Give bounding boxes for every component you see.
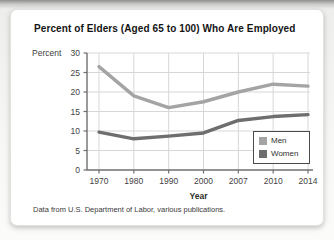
legend-item-women: Women xyxy=(259,150,309,158)
legend-label: Men xyxy=(271,137,287,145)
figure-card: Percent of Elders (Aged 65 to 100) Who A… xyxy=(10,9,324,226)
page-top-shadow xyxy=(0,0,334,9)
y-tick-label: 30 xyxy=(71,48,81,58)
x-tick-label: 2014 xyxy=(299,176,318,186)
men-swatch-icon xyxy=(259,137,267,145)
x-axis-title: Year xyxy=(87,191,310,201)
legend-label: Women xyxy=(271,150,298,158)
y-tick-label: 5 xyxy=(75,146,80,156)
y-tick-label: 10 xyxy=(71,126,81,136)
x-tick-label: 1970 xyxy=(90,176,109,186)
legend-item-men: Men xyxy=(259,137,309,145)
chart-legend: MenWomen xyxy=(253,131,310,164)
y-tick-label: 15 xyxy=(71,107,81,117)
x-tick-label: 1980 xyxy=(124,176,143,186)
x-tick-label: 2000 xyxy=(194,176,213,186)
x-tick-label: 2007 xyxy=(229,176,248,186)
x-tick-label: 2010 xyxy=(264,176,283,186)
x-tick-label: 1990 xyxy=(159,176,178,186)
source-footnote: Data from U.S. Department of Labor, vari… xyxy=(33,205,321,214)
women-swatch-icon xyxy=(259,150,267,158)
y-tick-label: 0 xyxy=(75,165,80,175)
y-tick-label: 20 xyxy=(71,87,81,97)
y-tick-label: 25 xyxy=(71,68,81,78)
